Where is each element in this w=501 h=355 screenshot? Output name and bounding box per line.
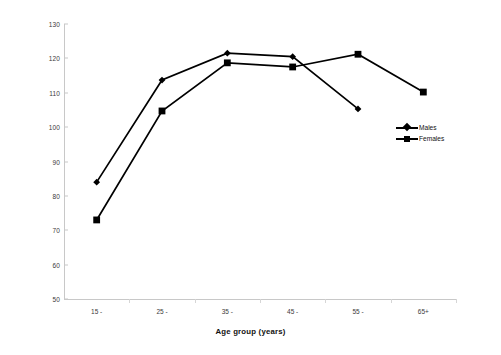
legend-label-females: Females <box>418 135 444 142</box>
legend: Males Females <box>396 122 444 144</box>
y-axis-tick-label: 100 <box>40 124 60 131</box>
x-axis-tick-mark <box>129 299 130 303</box>
x-axis-tick-label: 35 - <box>222 308 233 315</box>
y-axis-tick-label: 110 <box>40 89 60 96</box>
legend-label-males: Males <box>418 124 437 131</box>
legend-item-males[interactable]: Males <box>396 122 444 133</box>
x-axis-title: Age group (years) <box>0 327 501 336</box>
x-axis-tick-mark <box>195 299 196 303</box>
y-axis-tick-label: 60 <box>40 261 60 268</box>
x-axis-tick-mark <box>456 299 457 303</box>
diamond-marker-icon <box>396 122 418 133</box>
x-axis-tick-label: 65+ <box>418 308 429 315</box>
legend-item-females[interactable]: Females <box>396 133 444 144</box>
square-marker-icon <box>396 133 418 144</box>
y-axis-tick-label: 130 <box>40 21 60 28</box>
data-point-square[interactable] <box>159 108 166 115</box>
x-axis-tick-mark <box>260 299 261 303</box>
x-axis-tick-label: 55 - <box>352 308 363 315</box>
line-chart: 1301201101009080706050 15 -25 -35 -45 -5… <box>0 0 501 355</box>
series-lines <box>64 24 456 299</box>
x-axis-tick-label: 25 - <box>156 308 167 315</box>
data-point-square[interactable] <box>93 217 100 224</box>
data-point-square[interactable] <box>224 59 231 66</box>
data-point-square[interactable] <box>420 89 427 96</box>
y-axis-tick-label: 120 <box>40 55 60 62</box>
data-point-square[interactable] <box>289 64 296 71</box>
y-axis-tick-label: 50 <box>40 296 60 303</box>
x-axis-tick-label: 15 - <box>91 308 102 315</box>
series-line-males <box>97 53 358 182</box>
y-axis-tick-label: 70 <box>40 227 60 234</box>
data-point-square[interactable] <box>355 51 362 58</box>
x-axis-tick-mark <box>325 299 326 303</box>
x-axis-tick-label: 45 - <box>287 308 298 315</box>
x-axis-tick-mark <box>391 299 392 303</box>
y-axis-tick-label: 80 <box>40 192 60 199</box>
series-line-females <box>97 54 424 220</box>
plot-area <box>64 24 456 299</box>
data-point-diamond[interactable] <box>224 50 231 57</box>
y-axis-tick-label: 90 <box>40 158 60 165</box>
